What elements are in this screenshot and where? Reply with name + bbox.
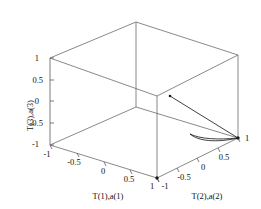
figure-canvas: 1 0.5 0 -0.5 -1 T(3),a(3) -1 -0.5 0 0.5 … [0, 0, 261, 209]
x-axis-title: T(1),a(1) [93, 192, 124, 201]
x-tick-label-1: 1 [150, 182, 154, 191]
z-tick-label-neg-1: -1 [32, 140, 39, 149]
trajectory-segment-hook [190, 134, 238, 141]
x-tick-label-0: 0 [101, 167, 105, 176]
y-tick-label-1: 1 [245, 134, 249, 143]
y-tick-0 [197, 158, 199, 162]
y-tick-label-0: 0 [201, 163, 205, 172]
y-axis-title: T(2),a(2) [192, 192, 223, 201]
origin-corner-marker [155, 176, 158, 179]
y-tick-label-neg-0-5: -0.5 [177, 173, 190, 182]
trajectory-segment-descent [170, 96, 238, 138]
y-tick-label-neg-1: -1 [161, 182, 168, 191]
trajectory-end-marker [236, 136, 239, 139]
z-tick-label-0: 0 [35, 97, 39, 106]
x-tick-label-neg-1: -1 [43, 150, 50, 159]
x-tick-label-neg-0-5: -0.5 [67, 158, 80, 167]
z-tick-label-1: 1 [35, 54, 39, 63]
trajectory-start-marker [169, 95, 172, 98]
z-tick-label-0-5: 0.5 [32, 76, 43, 85]
y-tick-label-0-5: 0.5 [219, 153, 230, 162]
box-edge-floor-back [50, 107, 238, 145]
z-axis-title: T(3),a(3) [26, 100, 35, 131]
box-edge-top-face [50, 22, 238, 96]
x-tick-label-0-5: 0.5 [124, 175, 135, 184]
